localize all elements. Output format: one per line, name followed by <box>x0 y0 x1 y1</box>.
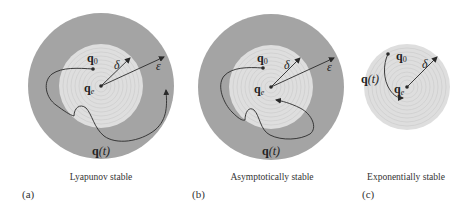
qe-point <box>99 84 103 88</box>
panel-tag-c: (c) <box>362 188 375 201</box>
stability-diagram-figure: q0 qe δ ε q(t) Lyapunov stable (a) <box>0 0 471 213</box>
caption-exponentially-stable: Exponentially stable <box>367 172 445 182</box>
delta-label: δ <box>284 58 290 72</box>
qe-point <box>405 85 409 89</box>
panel-c: q0 qe δ q(t) Exponentially stable (c) <box>361 44 450 201</box>
panel-a: q0 qe δ ε q(t) Lyapunov stable (a) <box>22 13 174 201</box>
panel-tag-a: (a) <box>22 188 35 201</box>
epsilon-label: ε <box>327 60 332 74</box>
qe-point <box>269 85 273 89</box>
delta-label: δ <box>114 58 120 72</box>
qt-label: q(t) <box>361 72 379 86</box>
epsilon-label: ε <box>156 59 161 73</box>
caption-lyapunov-stable: Lyapunov stable <box>70 172 133 182</box>
delta-label: δ <box>422 57 428 71</box>
q0-point <box>386 52 390 56</box>
q0-point <box>91 67 95 71</box>
caption-asymptotically-stable: Asymptotically stable <box>230 172 313 182</box>
q0-point <box>261 66 265 70</box>
panel-b: q0 qe δ ε q(t) Asymptotically stable (b) <box>192 14 344 201</box>
qt-label: q(t) <box>262 144 280 158</box>
panel-tag-b: (b) <box>192 188 205 201</box>
qt-label: q(t) <box>92 144 110 158</box>
